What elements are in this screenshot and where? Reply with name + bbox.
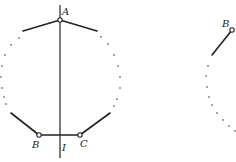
arc-dot [107,43,109,45]
arc-dot [10,44,12,46]
polygon-side [23,20,60,31]
label-c: C [80,138,88,149]
arc-dot [116,98,118,100]
polygon-side [11,113,39,135]
arc-dot [216,112,218,114]
arc-dot [206,86,208,88]
arc-dot [234,130,236,132]
arc-dot [208,96,210,98]
dotted-arc [205,65,236,132]
left-figure: A B C I [0,5,121,158]
arc-dot [1,65,3,67]
arc-dot [1,87,3,89]
arc-dot [113,105,115,107]
arc-dot [3,96,5,98]
vertex-b-marker [37,133,41,137]
polygon-side [60,20,97,31]
arc-dot [119,76,121,78]
polygon-side [80,113,110,135]
polygon-side [212,30,232,55]
vertex-c-marker [78,133,82,137]
label-b: B [31,139,39,150]
polygon-side [212,30,232,55]
arc-dot [205,75,207,77]
arc-dot [211,104,213,106]
arc-dot [0,76,2,78]
vertex-a-marker [58,18,62,22]
arc-dot [4,54,6,56]
right-figure: B [205,18,236,132]
arc-dot [119,87,121,89]
label-a: A [61,6,69,17]
arc-dot [222,119,224,121]
arc-dot [228,125,230,127]
arc-dot [18,37,20,39]
label-i: I [61,142,67,153]
arc-dot [113,54,115,56]
geometry-diagram: A B C I B [0,0,236,162]
arc-dot [5,103,7,105]
arc-dot [117,65,119,67]
label-b: B [221,18,229,29]
vertex-b-marker [230,28,234,32]
arc-dot [100,36,102,38]
arc-dot [207,65,209,67]
